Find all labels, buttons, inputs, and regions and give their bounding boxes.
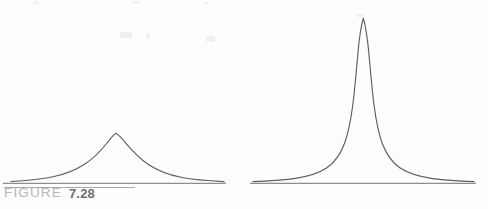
figure-caption: FIGURE 7.28 [4, 186, 135, 200]
figure-container: FIGURE 7.28 [0, 0, 488, 209]
platykurtic-curve [11, 133, 224, 181]
figure-caption-label: FIGURE [4, 186, 62, 200]
scan-artifacts [33, 1, 364, 42]
distribution-curves-graphic [0, 0, 488, 209]
leptokurtic-curve [253, 18, 474, 181]
figure-caption-number: 7.28 [69, 187, 95, 200]
